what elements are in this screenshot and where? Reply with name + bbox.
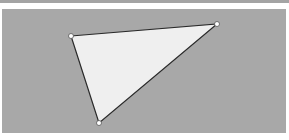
vertex-handle-2[interactable]: [215, 22, 220, 27]
triangle-shape-layer: [0, 0, 289, 140]
vertex-handle-1[interactable]: [69, 34, 74, 39]
triangle-shape[interactable]: [71, 24, 217, 123]
vertex-handle-3[interactable]: [97, 121, 102, 126]
